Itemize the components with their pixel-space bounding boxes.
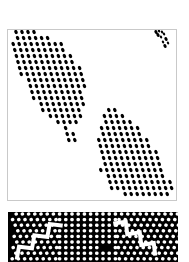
halftone-image-root — [0, 0, 189, 262]
inverse-halftone-strip — [8, 212, 178, 262]
strip-halftone-canvas — [8, 212, 178, 262]
panel-halftone-canvas — [8, 30, 176, 200]
halftone-panel — [7, 29, 177, 201]
